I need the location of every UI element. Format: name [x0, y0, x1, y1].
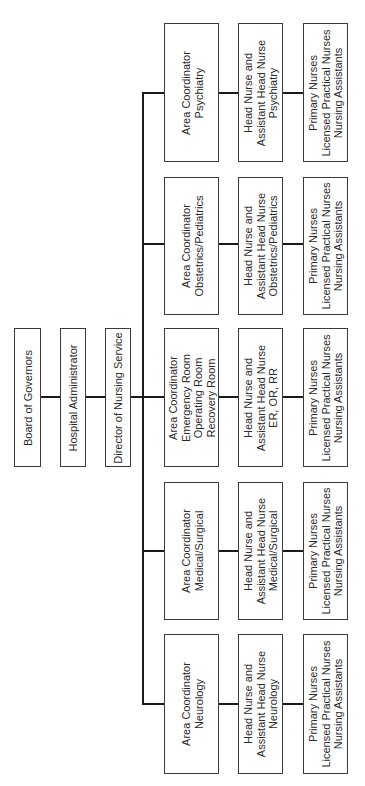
- branch-neurology: [142, 703, 164, 705]
- connector-ac-hn-er-or-rr: [219, 396, 238, 398]
- head-nurse-label: Head Nurse and Assistant Head Nurse ER, …: [242, 344, 280, 450]
- head-nurse-psychiatry: Head Nurse and Assistant Head Nurse Psyc…: [238, 23, 283, 162]
- director-of-nursing-label: Director of Nursing Service: [112, 332, 125, 463]
- area-coordinator-label: Area Coordinator Medical/Surgical: [179, 509, 204, 593]
- org-chart: Board of Governors Hospital Administrato…: [0, 0, 365, 786]
- head-nurse-label: Head Nurse and Assistant Head Nurse Psyc…: [242, 39, 280, 145]
- staff-medical-surgical: Primary Nurses Licensed Practical Nurses…: [303, 482, 348, 620]
- staff-neurology: Primary Nurses Licensed Practical Nurses…: [303, 634, 348, 774]
- connector-ac-hn-obstetrics-pediatrics: [219, 243, 238, 245]
- staff-label: Primary Nurses Licensed Practical Nurses…: [307, 334, 345, 461]
- connector-admin-director: [86, 396, 105, 398]
- area-coordinator-label: Area Coordinator Psychiatry: [179, 51, 204, 135]
- area-coordinator-neurology: Area Coordinator Neurology: [164, 634, 219, 774]
- connector-hn-staff-er-or-rr: [283, 396, 303, 398]
- staff-er-or-rr: Primary Nurses Licensed Practical Nurses…: [303, 328, 348, 467]
- area-coordinator-label: Area Coordinator Neurology: [179, 662, 204, 746]
- area-coordinator-medical-surgical: Area Coordinator Medical/Surgical: [164, 482, 219, 620]
- connector-ac-hn-medical-surgical: [219, 550, 238, 552]
- area-coordinator-er-or-rr: Area Coordinator Emergency Room Operatin…: [164, 328, 219, 467]
- head-nurse-medical-surgical: Head Nurse and Assistant Head Nurse Medi…: [238, 482, 283, 620]
- area-coordinator-label: Area Coordinator Emergency Room Operatin…: [167, 353, 217, 441]
- head-nurse-neurology: Head Nurse and Assistant Head Nurse Neur…: [238, 634, 283, 774]
- trunk-line: [142, 92, 144, 705]
- branch-psychiatry: [142, 92, 164, 94]
- connector-hn-staff-psychiatry: [283, 92, 303, 94]
- staff-psychiatry: Primary Nurses Licensed Practical Nurses…: [303, 23, 348, 162]
- connector-board-admin: [41, 396, 60, 398]
- director-of-nursing-box: Director of Nursing Service: [105, 328, 131, 467]
- connector-hn-staff-medical-surgical: [283, 550, 303, 552]
- staff-label: Primary Nurses Licensed Practical Nurses…: [307, 29, 345, 156]
- branch-obstetrics-pediatrics: [142, 243, 164, 245]
- head-nurse-label: Head Nurse and Assistant Head Nurse Medi…: [242, 498, 280, 604]
- branch-er-or-rr: [142, 396, 164, 398]
- connector-hn-staff-obstetrics-pediatrics: [283, 243, 303, 245]
- board-of-governors-box: Board of Governors: [14, 328, 41, 467]
- area-coordinator-obstetrics-pediatrics: Area Coordinator Obstetrics/Pediatrics: [164, 177, 219, 315]
- connector-ac-hn-neurology: [219, 703, 238, 705]
- head-nurse-er-or-rr: Head Nurse and Assistant Head Nurse ER, …: [238, 328, 283, 467]
- connector-ac-hn-psychiatry: [219, 92, 238, 94]
- staff-label: Primary Nurses Licensed Practical Nurses…: [307, 182, 345, 309]
- hospital-administrator-label: Hospital Administrator: [67, 344, 80, 451]
- staff-label: Primary Nurses Licensed Practical Nurses…: [307, 640, 345, 767]
- staff-obstetrics-pediatrics: Primary Nurses Licensed Practical Nurses…: [303, 177, 348, 315]
- head-nurse-label: Head Nurse and Assistant Head Nurse Neur…: [242, 651, 280, 757]
- board-of-governors-label: Board of Governors: [21, 350, 34, 446]
- hospital-administrator-box: Hospital Administrator: [60, 328, 86, 467]
- staff-label: Primary Nurses Licensed Practical Nurses…: [307, 487, 345, 614]
- area-coordinator-label: Area Coordinator Obstetrics/Pediatrics: [179, 196, 204, 297]
- head-nurse-label: Head Nurse and Assistant Head Nurse Obst…: [242, 193, 280, 299]
- head-nurse-obstetrics-pediatrics: Head Nurse and Assistant Head Nurse Obst…: [238, 177, 283, 315]
- area-coordinator-psychiatry: Area Coordinator Psychiatry: [164, 23, 219, 162]
- branch-medical-surgical: [142, 550, 164, 552]
- connector-hn-staff-neurology: [283, 703, 303, 705]
